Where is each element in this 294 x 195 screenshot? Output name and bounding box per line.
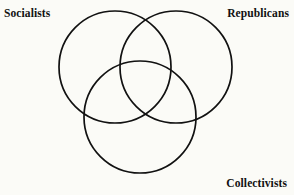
venn-diagram-canvas	[0, 0, 294, 195]
venn-label-socialists: Socialists	[4, 8, 50, 20]
venn-label-collectivists: Collectivists	[226, 178, 287, 190]
venn-diagram: Socialists Republicans Collectivists	[0, 0, 294, 195]
venn-circle-republicans	[120, 11, 232, 123]
venn-label-republicans: Republicans	[227, 8, 289, 20]
